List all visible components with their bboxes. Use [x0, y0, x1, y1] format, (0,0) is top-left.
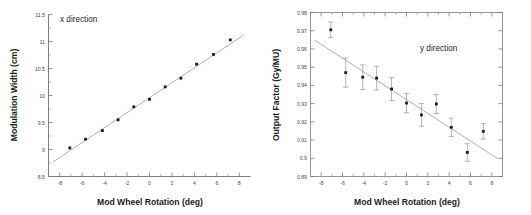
y-tick-group: 0.890.90.910.920.930.940.950.960.970.98 — [297, 10, 503, 180]
data-point — [195, 63, 198, 66]
x-tick-label: 8 — [238, 180, 241, 186]
data-point — [132, 105, 135, 108]
y-tick-label: 0.96 — [297, 46, 307, 52]
y-tick-label: 10 — [39, 93, 45, 99]
y-tick-label: 8.5 — [38, 174, 45, 180]
data-point — [390, 88, 393, 91]
x-tick-label: -6 — [80, 180, 85, 186]
x-tick-label: 6 — [469, 180, 472, 186]
x-tick-label: 2 — [426, 180, 429, 186]
x-tick-label: -8 — [319, 180, 324, 186]
chart-svg-y-direction: 0.890.90.910.920.930.940.950.960.970.98 … — [265, 0, 531, 215]
panel-annotation-y: y direction — [420, 44, 458, 53]
axes-x-direction — [49, 15, 251, 177]
data-point — [329, 28, 332, 31]
x-tick-label: -8 — [57, 180, 62, 186]
y-tick-label: 0.91 — [297, 137, 307, 143]
y-tick-label: 11 — [40, 39, 45, 45]
y-tick-group: 8.599.51010.51111.5 — [35, 12, 53, 180]
data-point — [101, 129, 104, 132]
chart-panel-x-direction: 8.599.51010.51111.5 -8-6-4-202468 x dire… — [0, 0, 265, 215]
x-axis-title: Mod Wheel Rotation (deg) — [354, 197, 460, 207]
data-point — [450, 126, 453, 129]
x-tick-label: -2 — [383, 180, 388, 186]
data-point — [375, 77, 378, 80]
panel-annotation-x: x direction — [60, 15, 98, 24]
x-tick-label: 4 — [193, 180, 196, 186]
data-point-group — [68, 38, 231, 149]
x-axis-title: Mod Wheel Rotation (deg) — [97, 197, 203, 207]
chart-svg-x-direction: 8.599.51010.51111.5 -8-6-4-202468 x dire… — [0, 0, 265, 215]
data-point — [344, 71, 347, 74]
y-tick-label: 9.5 — [38, 120, 45, 126]
data-point — [84, 138, 87, 141]
y-tick-label: 0.97 — [297, 28, 307, 34]
data-point — [435, 103, 438, 106]
x-tick-label: -6 — [340, 180, 345, 186]
data-point — [164, 85, 167, 88]
y-axis-title: Output Factor (Gy/MU) — [271, 49, 281, 141]
data-point — [361, 76, 364, 79]
y-axis-title: Modulation Width (cm) — [9, 49, 19, 142]
x-tick-label: 0 — [405, 180, 408, 186]
x-tick-label: 8 — [490, 180, 493, 186]
y-tick-label: 0.9 — [300, 155, 307, 161]
data-point — [148, 98, 151, 101]
data-point — [68, 146, 71, 149]
y-tick-label: 11.5 — [35, 12, 45, 18]
y-tick-label: 0.89 — [297, 174, 307, 180]
data-point — [229, 38, 232, 41]
y-tick-label: 0.95 — [297, 64, 307, 70]
y-tick-label: 10.5 — [35, 66, 45, 72]
data-point — [482, 130, 485, 133]
data-point — [212, 53, 215, 56]
y-tick-label: 9 — [42, 147, 45, 153]
y-tick-label: 0.92 — [297, 119, 307, 125]
data-point — [180, 77, 183, 80]
data-point — [466, 151, 469, 154]
data-point-group — [328, 22, 486, 161]
y-tick-label: 0.94 — [297, 82, 307, 88]
figure-two-panel-plots: 8.599.51010.51111.5 -8-6-4-202468 x dire… — [0, 0, 531, 215]
y-tick-label: 0.93 — [297, 101, 307, 107]
x-tick-label: 6 — [215, 180, 218, 186]
chart-panel-y-direction: 0.890.90.910.920.930.940.950.960.970.98 … — [265, 0, 531, 215]
x-tick-label: 2 — [170, 180, 173, 186]
x-tick-label: 0 — [148, 180, 151, 186]
x-tick-label: -2 — [125, 180, 130, 186]
x-tick-group: -8-6-4-202468 — [57, 173, 240, 186]
x-tick-label: -4 — [362, 180, 367, 186]
data-point — [420, 114, 423, 117]
x-tick-label: -4 — [102, 180, 107, 186]
data-point — [117, 118, 120, 121]
y-tick-label: 0.98 — [297, 10, 307, 16]
data-point — [405, 102, 408, 105]
x-tick-label: 4 — [448, 180, 451, 186]
